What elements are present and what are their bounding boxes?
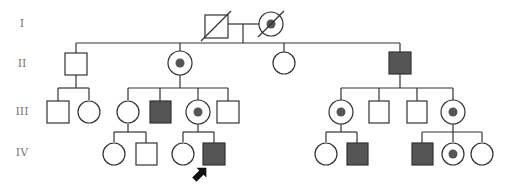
- pedigree-lines: [0, 0, 508, 190]
- individual-IV-3-female: [172, 143, 194, 165]
- individual-II-3-female: [273, 52, 295, 74]
- individual-III-7-female-carrier: [329, 100, 353, 124]
- individual-I-2-female-carrier-deceased: [258, 11, 284, 37]
- individual-III-10-female-carrier: [441, 100, 465, 124]
- pedigree-chart: I II III IV: [0, 0, 508, 190]
- individual-III-9-male: [407, 101, 427, 123]
- individual-III-4-male-affected: [150, 101, 171, 123]
- individual-III-6-male: [217, 101, 239, 123]
- individual-III-8-male: [369, 101, 389, 123]
- individual-IV-1-female: [103, 143, 125, 165]
- individual-III-3-female: [117, 101, 139, 123]
- individual-II-2-female-carrier: [168, 51, 192, 75]
- individual-III-2-female: [78, 101, 100, 123]
- individual-IV-7-male-affected: [412, 143, 433, 165]
- individual-IV-5-female: [315, 143, 337, 165]
- proband-arrow-icon: [189, 163, 211, 185]
- individual-IV-2-male: [136, 143, 157, 165]
- individual-IV-8-female-carrier: [442, 143, 464, 165]
- individual-IV-9-female: [471, 143, 493, 165]
- individual-I-1-male-deceased: [201, 11, 231, 41]
- individual-III-5-female-carrier: [186, 100, 210, 124]
- individual-II-4-male-affected: [389, 52, 411, 74]
- individual-II-1-male: [65, 53, 87, 75]
- individual-IV-4-male-affected-proband: [203, 143, 225, 165]
- individual-IV-6-male-affected: [347, 143, 368, 165]
- individual-III-1-male: [47, 101, 69, 123]
